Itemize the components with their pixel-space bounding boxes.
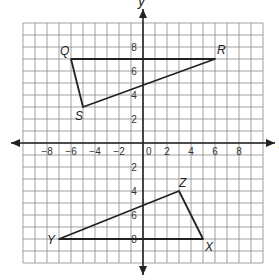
y-tick-label: 4: [131, 90, 137, 101]
y-tick-label: 6: [131, 210, 137, 221]
y-tick-label: 6: [131, 66, 137, 77]
vertex-label-q: Q: [60, 44, 69, 58]
y-tick-label: 8: [131, 42, 137, 53]
y-tick-label: 4: [131, 186, 137, 197]
vertex-label-r: R: [217, 43, 226, 57]
x-tick-label: 2: [164, 146, 170, 157]
x-tick-label: 4: [188, 146, 194, 157]
vertex-label-s: S: [75, 109, 83, 123]
vertex-label-z: Z: [178, 176, 187, 190]
vertex-label-y: Y: [47, 233, 56, 247]
y-tick-label: 2: [131, 114, 137, 125]
x-tick-label: −6: [65, 146, 77, 157]
x-tick-label: −2: [113, 146, 125, 157]
y-axis-label: y: [137, 0, 146, 9]
arrow-up-icon: [139, 9, 147, 18]
arrow-down-icon: [139, 266, 147, 275]
y-tick-label: 2: [131, 162, 137, 173]
arrow-left-icon: [11, 139, 20, 147]
vertex-label-x: X: [204, 240, 214, 254]
coordinate-plane: xy −8−6−4−20246886422468 QRSZXY: [0, 0, 279, 280]
x-tick-label: 8: [236, 146, 242, 157]
arrow-right-icon: [266, 139, 275, 147]
x-axis-label: x: [278, 135, 279, 151]
x-tick-label: 0: [146, 146, 152, 157]
x-tick-label: 6: [212, 146, 218, 157]
x-tick-label: −4: [89, 146, 101, 157]
x-tick-label: −8: [41, 146, 53, 157]
